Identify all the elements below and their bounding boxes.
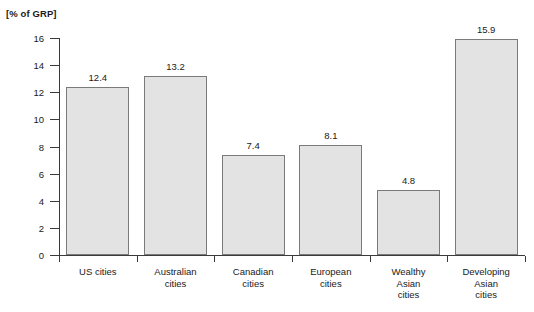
- y-axis-tick-label: 6: [4, 170, 44, 180]
- x-axis-tick: [525, 256, 526, 262]
- bar-value-label: 7.4: [222, 141, 285, 151]
- y-axis-tick-label: 16: [4, 34, 44, 44]
- bar: [299, 145, 362, 255]
- bar-value-label: 13.2: [144, 62, 207, 72]
- x-axis-tick: [292, 256, 293, 262]
- bar-value-label: 15.9: [455, 25, 518, 35]
- y-axis-tick: [50, 201, 59, 202]
- bar: [455, 39, 518, 255]
- bar: [222, 155, 285, 255]
- plot-area: 12.413.27.48.14.815.9: [59, 38, 525, 255]
- bar: [377, 190, 440, 255]
- y-axis-tick-label: 14: [4, 61, 44, 71]
- y-axis-tick-label: 4: [4, 197, 44, 207]
- x-axis-category-label: Developing Asian cities: [447, 266, 525, 301]
- y-axis-tick: [50, 92, 59, 93]
- x-axis-category-label: Australian cities: [137, 266, 215, 289]
- y-axis-tick-label: 2: [4, 224, 44, 234]
- y-axis-tick: [50, 147, 59, 148]
- bar: [66, 87, 129, 255]
- y-axis-unit-label: [% of GRP]: [6, 8, 57, 19]
- x-axis-category-label: Canadian cities: [214, 266, 292, 289]
- y-axis-tick-label: 12: [4, 88, 44, 98]
- x-axis-tick: [214, 256, 215, 262]
- y-axis-tick-label: 10: [4, 115, 44, 125]
- y-axis-tick: [50, 119, 59, 120]
- y-axis-tick: [50, 65, 59, 66]
- x-axis-tick: [370, 256, 371, 262]
- bar-value-label: 4.8: [377, 176, 440, 186]
- bar-chart-figure: [% of GRP] 0246810121416 12.413.27.48.14…: [0, 0, 534, 312]
- y-axis-tick-label: 8: [4, 143, 44, 153]
- y-axis-tick: [50, 174, 59, 175]
- x-axis-category-label: US cities: [59, 266, 137, 278]
- x-axis-category-label: Wealthy Asian cities: [370, 266, 448, 301]
- x-axis-tick: [59, 256, 60, 262]
- bar-value-label: 12.4: [66, 73, 129, 83]
- x-axis-tick: [137, 256, 138, 262]
- y-axis-tick: [50, 228, 59, 229]
- y-axis-tick: [50, 38, 59, 39]
- bar-value-label: 8.1: [299, 131, 362, 141]
- y-axis-tick-label: 0: [4, 251, 44, 261]
- y-axis-tick: [50, 255, 59, 256]
- x-axis-tick: [447, 256, 448, 262]
- x-axis-category-label: European cities: [292, 266, 370, 289]
- bar: [144, 76, 207, 255]
